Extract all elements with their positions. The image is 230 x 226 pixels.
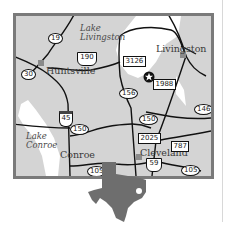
- lake-livingston-line2: Livingston: [80, 33, 125, 42]
- lake-label-conroe: Lake Conroe: [26, 132, 57, 150]
- city-label-huntsville: Huntsville: [46, 66, 95, 76]
- texas-locator-icon: [88, 160, 158, 222]
- us-highway-190-shield: 190: [77, 52, 97, 66]
- page-divider: [222, 0, 223, 222]
- star-location-icon: [143, 71, 155, 83]
- lake-conroe-line2: Conroe: [26, 141, 57, 150]
- road-map: Huntsville Livingston Conroe Cleveland L…: [13, 13, 214, 179]
- fm-2025-marker: 2025: [138, 133, 161, 144]
- city-marker-huntsville: [38, 60, 44, 66]
- lake-label-livingston: Lake Livingston: [80, 24, 125, 42]
- highway-30-marker: 30: [21, 69, 36, 80]
- interstate-45-shield: 45: [59, 111, 73, 127]
- fm-1988-marker: 1988: [153, 79, 176, 90]
- fm-3126-marker: 3126: [123, 56, 146, 67]
- highway-19-marker: 19: [48, 33, 63, 44]
- fm-787-marker: 787: [171, 141, 189, 152]
- city-label-conroe: Conroe: [60, 150, 95, 160]
- city-label-livingston: Livingston: [156, 44, 206, 54]
